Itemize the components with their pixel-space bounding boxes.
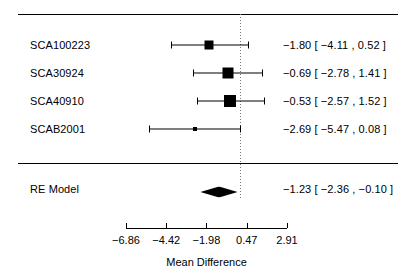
confidence-interval-cap [262, 70, 263, 77]
axis-tick [166, 223, 167, 228]
confidence-interval-cap [197, 98, 198, 105]
effect-size-marker [193, 127, 197, 131]
effect-size-marker [222, 68, 233, 79]
axis-title: Mean Difference [166, 256, 247, 268]
effect-size-marker [205, 41, 214, 50]
study-label: SCA30924 [30, 67, 84, 79]
study-label: SCA40910 [30, 95, 84, 107]
axis-tick-label: −4.42 [152, 234, 180, 246]
axis-tick-label: −6.86 [112, 234, 140, 246]
null-effect-reference-line [240, 14, 241, 200]
axis-tick [247, 223, 248, 228]
axis-tick-label: −1.98 [192, 234, 220, 246]
summary-estimate-label: −1.23 [ −2.36 , −0.10 ] [283, 183, 393, 195]
confidence-interval-cap [171, 42, 172, 49]
study-label: SCAB2001 [30, 123, 85, 135]
header-rule [18, 14, 398, 15]
summary-label: RE Model [30, 183, 79, 195]
axis-tick [206, 223, 207, 228]
axis-tick-label: 2.91 [276, 234, 297, 246]
effect-estimate-label: −0.53 [ −2.57 , 1.52 ] [283, 95, 387, 107]
summary-diamond [200, 184, 237, 195]
summary-separator-rule [18, 163, 398, 164]
effect-estimate-label: −2.69 [ −5.47 , 0.08 ] [283, 123, 387, 135]
confidence-interval-cap [264, 98, 265, 105]
forest-plot: SCA100223−1.80 [ −4.11 , 0.52 ]SCA30924−… [0, 0, 416, 277]
study-label: SCA100223 [30, 39, 90, 51]
axis-tick [126, 223, 127, 228]
confidence-interval-cap [193, 70, 194, 77]
effect-estimate-label: −0.69 [ −2.78 , 1.41 ] [283, 67, 387, 79]
axis-tick-label: 0.47 [236, 234, 257, 246]
axis-tick [287, 223, 288, 228]
confidence-interval-cap [248, 42, 249, 49]
effect-size-marker [224, 95, 236, 107]
confidence-interval-cap [240, 126, 241, 133]
axis-baseline [126, 228, 287, 229]
confidence-interval-cap [149, 126, 150, 133]
effect-estimate-label: −1.80 [ −4.11 , 0.52 ] [283, 39, 386, 51]
